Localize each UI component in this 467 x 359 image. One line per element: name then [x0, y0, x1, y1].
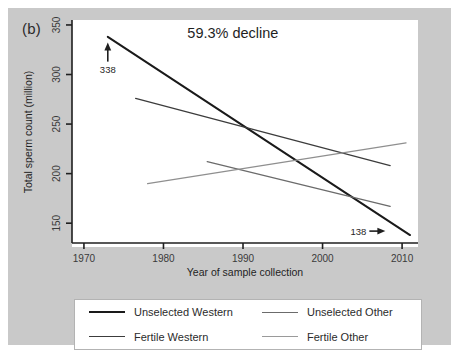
y-axis-title: Total sperm count (million) [22, 71, 34, 194]
y-tick-label: 350 [51, 16, 62, 33]
chart-plot: 150200250300350 19701980199020002010 59.… [8, 8, 451, 345]
legend-item-unselected-other[interactable]: Unselected Other [248, 306, 421, 318]
x-axis-title: Year of sample collection [187, 266, 304, 278]
legend-item-fertile-western[interactable]: Fertile Western [75, 331, 248, 343]
x-tick-label: 2000 [311, 253, 334, 264]
x-tick-label: 2010 [391, 253, 414, 264]
legend-swatch-fertile-western [89, 336, 125, 337]
legend-label-fertile-western: Fertile Western [134, 331, 208, 343]
plot-area-background [72, 20, 418, 247]
annotation-338: 338 [100, 64, 116, 75]
legend-label-fertile-other: Fertile Other [307, 331, 368, 343]
figure-root: (b) 150200250300350 19701980199020002010… [0, 0, 467, 359]
legend-label-unselected-western: Unselected Western [134, 306, 233, 318]
legend-swatch-fertile-other [262, 336, 298, 337]
annotation-decline-text: 59.3% decline [187, 25, 278, 41]
y-axis-ticks: 150200250300350 [51, 16, 72, 231]
figure-panel: (b) 150200250300350 19701980199020002010… [8, 8, 451, 345]
legend-grid: Unselected Western Unselected Other Fert… [75, 300, 421, 349]
x-tick-label: 1970 [73, 253, 96, 264]
x-tick-label: 1980 [152, 253, 175, 264]
legend-swatch-unselected-other [262, 312, 298, 313]
annotation-138: 138 [350, 226, 366, 237]
y-tick-label: 200 [51, 165, 62, 182]
x-tick-label: 1990 [232, 253, 255, 264]
chart-legend: Unselected Western Unselected Other Fert… [74, 299, 422, 350]
y-tick-label: 250 [51, 115, 62, 132]
legend-swatch-unselected-western [89, 311, 125, 313]
legend-item-fertile-other[interactable]: Fertile Other [248, 331, 421, 343]
legend-item-unselected-western[interactable]: Unselected Western [75, 306, 248, 318]
y-tick-label: 300 [51, 66, 62, 83]
legend-label-unselected-other: Unselected Other [307, 306, 393, 318]
y-tick-label: 150 [51, 214, 62, 231]
